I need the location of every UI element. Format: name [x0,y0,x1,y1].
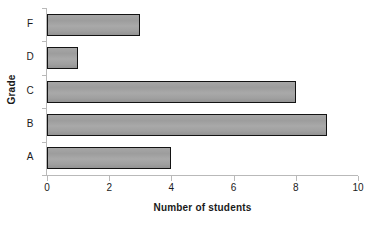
x-tick-label-4: 4 [156,182,186,193]
x-axis-line [46,175,358,176]
bar-a [47,147,171,169]
x-tick-label-2: 2 [94,182,124,193]
bar-chart: Grade FDCBA 0246810 Number of students [0,0,383,225]
x-tick-label-6: 6 [219,182,249,193]
x-tick-mark [296,176,297,181]
y-tick-label-f: F [20,18,40,29]
bar-c [47,81,296,103]
y-tick-label-c: C [20,85,40,96]
x-axis-title: Number of students [47,202,358,213]
x-tick-label-8: 8 [281,182,311,193]
plot-area [47,8,358,175]
x-tick-mark [47,176,48,181]
bar-b [47,114,327,136]
x-tick-mark [171,176,172,181]
bar-f [47,14,140,36]
x-tick-mark [109,176,110,181]
x-tick-label-10: 10 [343,182,373,193]
y-tick-label-a: A [20,151,40,162]
x-tick-label-0: 0 [32,182,62,193]
bar-d [47,47,78,69]
y-tick-label-d: D [20,51,40,62]
x-tick-mark [358,176,359,181]
x-tick-mark [234,176,235,181]
y-tick-label-b: B [20,118,40,129]
y-axis-title: Grade [6,60,17,120]
